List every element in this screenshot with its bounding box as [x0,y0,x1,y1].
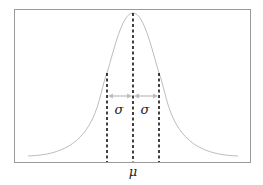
sigma-right-label: σ [141,102,151,117]
sigma-left-arrow [108,94,132,99]
sigma-right-arrow [134,94,158,99]
normal-distribution-diagram: σ σ μ [0,0,263,185]
mean-label: μ [129,164,137,179]
sigma-left-label: σ [115,102,125,117]
